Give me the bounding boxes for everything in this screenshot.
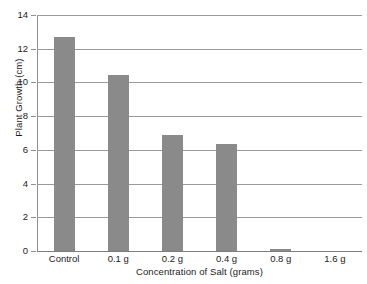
x-tick-label-0.1-g: 0.1 g bbox=[91, 254, 145, 264]
x-tick-label-0.4-g: 0.4 g bbox=[200, 254, 254, 264]
x-tick-label-control: Control bbox=[37, 254, 91, 264]
y-tick-mark-6 bbox=[31, 150, 36, 151]
bar-0.4-g bbox=[216, 144, 237, 251]
y-tick-mark-12 bbox=[31, 49, 36, 50]
x-tick-label-0.2-g: 0.2 g bbox=[145, 254, 199, 264]
y-tick-mark-2 bbox=[31, 217, 36, 218]
bar-chart-figure: Plant Growth (cm) 02468101214 Control0.1… bbox=[0, 0, 367, 284]
gridline-14 bbox=[37, 15, 362, 16]
y-tick-mark-8 bbox=[31, 116, 36, 117]
x-tick-label-1.6-g: 1.6 g bbox=[308, 254, 362, 264]
gridline-2 bbox=[37, 217, 362, 218]
x-tick-label-0.8-g: 0.8 g bbox=[254, 254, 308, 264]
gridline-12 bbox=[37, 49, 362, 50]
y-tick-label-2: 2 bbox=[0, 212, 28, 222]
bar-control bbox=[54, 37, 75, 251]
gridline-6 bbox=[37, 150, 362, 151]
x-axis-title: Concentration of Salt (grams) bbox=[37, 266, 362, 277]
y-tick-mark-4 bbox=[31, 184, 36, 185]
gridline-4 bbox=[37, 184, 362, 185]
y-tick-label-4: 4 bbox=[0, 179, 28, 189]
gridline-10 bbox=[37, 82, 362, 83]
bar-0.8-g bbox=[270, 249, 291, 251]
gridline-0 bbox=[37, 251, 362, 252]
y-tick-label-8: 8 bbox=[0, 111, 28, 121]
gridline-8 bbox=[37, 116, 362, 117]
y-tick-label-10: 10 bbox=[0, 77, 28, 87]
y-tick-label-6: 6 bbox=[0, 145, 28, 155]
bar-0.2-g bbox=[162, 135, 183, 251]
y-tick-mark-0 bbox=[31, 251, 36, 252]
y-tick-mark-14 bbox=[31, 15, 36, 16]
y-tick-label-0: 0 bbox=[0, 246, 28, 256]
y-tick-label-12: 12 bbox=[0, 44, 28, 54]
bar-0.1-g bbox=[108, 75, 129, 251]
y-tick-mark-10 bbox=[31, 82, 36, 83]
y-tick-label-14: 14 bbox=[0, 10, 28, 20]
plot-area bbox=[37, 15, 362, 251]
